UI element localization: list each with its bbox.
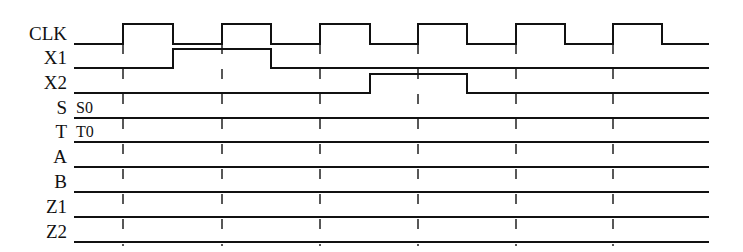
waveforms [74,24,709,242]
timing-diagram: CLK X1 X2 S T A B Z1 Z2 S0 T0 [0,0,743,252]
x1-waveform [74,49,709,68]
x2-waveform [74,74,709,93]
clk-waveform [74,24,709,44]
clock-edge-guides [123,44,613,246]
waveform-canvas [0,0,743,252]
